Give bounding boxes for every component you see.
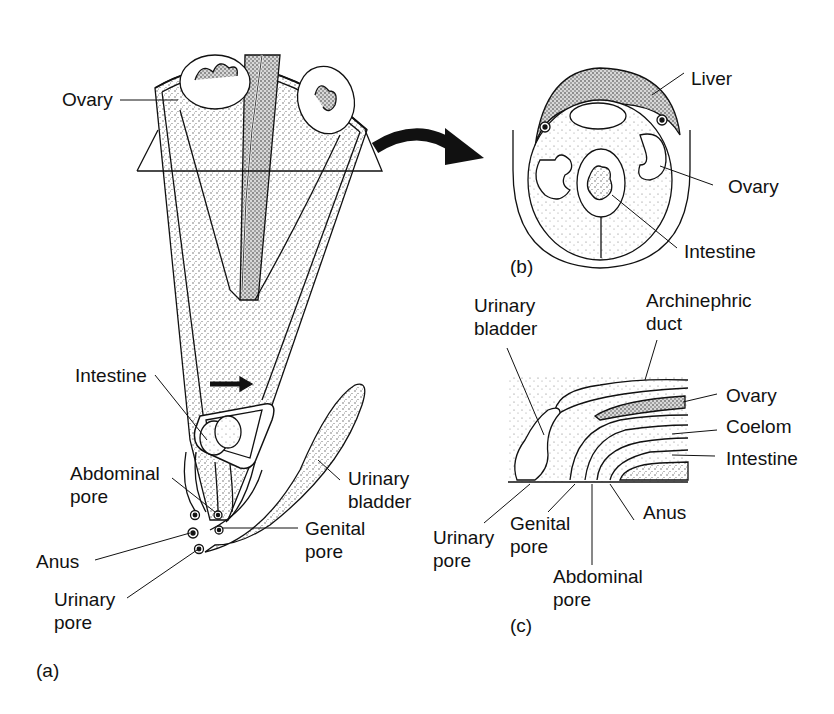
- label-a-genital-pore-2: pore: [305, 541, 343, 563]
- anatomy-figure: Ovary Intestine Abdominal pore Urinary b…: [0, 0, 834, 714]
- label-a-genital-pore-1: Genital: [305, 518, 365, 540]
- label-a-urinary-bladder-1: Urinary: [348, 468, 409, 490]
- panel-a-drawing: [95, 55, 382, 598]
- label-b-liver: Liver: [691, 68, 732, 90]
- label-c-urinary-bladder-2: bladder: [474, 318, 537, 340]
- section-arrow: [375, 128, 484, 165]
- label-a-urinary-pore-1: Urinary: [54, 589, 115, 611]
- label-c-genital-pore-2: pore: [510, 536, 548, 558]
- label-a-intestine: Intestine: [75, 365, 147, 387]
- panel-label-c: (c): [510, 615, 532, 637]
- label-c-urinary-bladder-1: Urinary: [474, 295, 535, 317]
- panel-label-b: (b): [510, 256, 533, 278]
- label-c-ovary: Ovary: [726, 385, 777, 407]
- label-c-genital-pore-1: Genital: [510, 513, 570, 535]
- label-c-urinary-pore-1: Urinary: [433, 527, 494, 549]
- label-c-anus: Anus: [643, 502, 686, 524]
- label-c-coelom: Coelom: [726, 416, 791, 438]
- label-c-urinary-pore-2: pore: [433, 550, 471, 572]
- label-a-urinary-pore-2: pore: [54, 612, 92, 634]
- label-a-anus: Anus: [36, 551, 79, 573]
- panel-label-a: (a): [36, 660, 59, 682]
- label-b-intestine: Intestine: [684, 241, 756, 263]
- label-c-abdominal-pore-1: Abdominal: [553, 566, 643, 588]
- label-a-abdominal-pore-1: Abdominal: [70, 463, 160, 485]
- label-c-archinephric-duct-1: Archinephric: [646, 290, 752, 312]
- label-a-abdominal-pore-2: pore: [70, 486, 108, 508]
- figure-drawing: [0, 0, 834, 714]
- label-c-intestine: Intestine: [726, 448, 798, 470]
- label-a-urinary-bladder-2: bladder: [348, 491, 411, 513]
- label-a-ovary: Ovary: [62, 89, 113, 111]
- label-c-archinephric-duct-2: duct: [646, 313, 682, 335]
- label-b-ovary: Ovary: [728, 176, 779, 198]
- panel-b-drawing: [513, 68, 713, 268]
- label-c-abdominal-pore-2: pore: [553, 589, 591, 611]
